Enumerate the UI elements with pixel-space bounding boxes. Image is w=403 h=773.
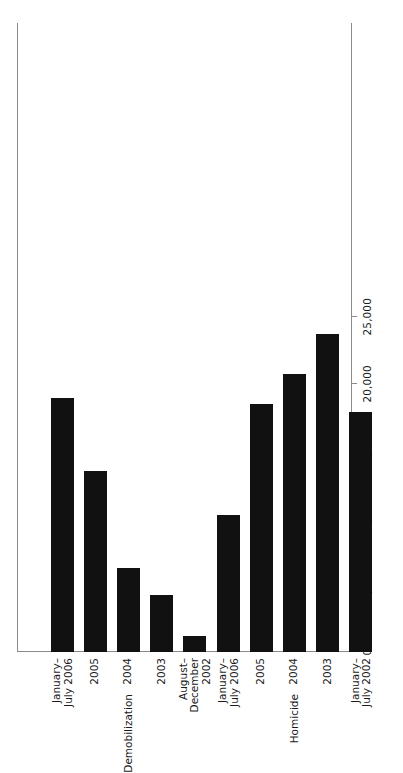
bar <box>51 398 74 652</box>
bar <box>117 568 140 652</box>
bar <box>316 334 339 652</box>
axis-tick <box>352 316 357 317</box>
bar <box>217 515 240 652</box>
category-label: 2004 <box>123 658 135 685</box>
bar <box>283 374 306 652</box>
group-label: Homicide <box>288 694 300 743</box>
bar <box>84 471 107 652</box>
axis-tick <box>352 383 357 384</box>
category-label: August– December 2002 <box>178 658 213 712</box>
category-label: 2003 <box>156 658 168 685</box>
axis-tick-label: 25,000 <box>361 298 373 335</box>
category-label: January– July 2002 <box>349 658 372 707</box>
bar <box>349 412 372 652</box>
bar <box>250 404 273 652</box>
category-label: 2005 <box>89 658 101 685</box>
category-label: January– July 2006 <box>217 658 240 707</box>
category-label: January– July 2006 <box>51 658 74 707</box>
bar <box>150 595 173 652</box>
bar <box>183 636 206 652</box>
category-label: 2003 <box>322 658 334 685</box>
category-label: 2004 <box>289 658 301 685</box>
group-label: Demobilization <box>122 694 134 773</box>
category-label: 2005 <box>255 658 267 685</box>
axis-tick-label: 20,000 <box>361 365 373 402</box>
